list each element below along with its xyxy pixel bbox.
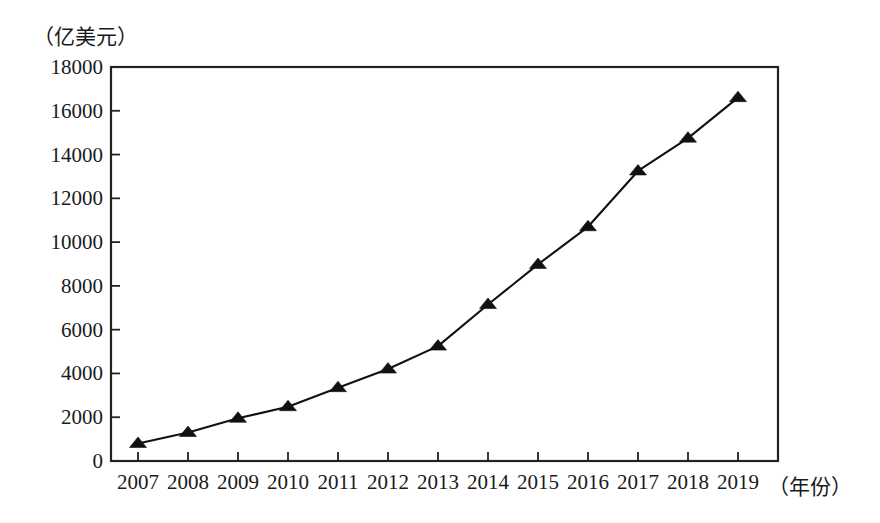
x-tick-label: 2008 [167,470,209,495]
y-tick-label: 16000 [51,98,104,123]
x-axis-title: （年份） [768,470,852,500]
x-tick-label: 2012 [367,470,409,495]
y-tick-label: 10000 [51,230,104,255]
y-tick-label: 0 [93,449,104,474]
x-tick-label: 2009 [217,470,259,495]
y-axis-ticks [111,111,120,417]
y-tick-label: 2000 [61,405,103,430]
x-tick-label: 2007 [117,470,159,495]
x-tick-label: 2019 [717,470,759,495]
y-tick-label: 14000 [51,142,104,167]
x-tick-label: 2018 [667,470,709,495]
x-tick-label: 2014 [467,470,509,495]
data-markers [130,91,747,447]
x-tick-label: 2011 [317,470,358,495]
y-tick-label: 6000 [61,317,103,342]
x-tick-label: 2016 [567,470,609,495]
chart-figure: （亿美元） 0200040006000800010000120001400016… [0,0,880,523]
plot-frame [111,67,778,461]
x-tick-label: 2013 [417,470,459,495]
y-tick-label: 12000 [51,186,104,211]
x-tick-label: 2015 [517,470,559,495]
data-line [138,98,738,444]
y-tick-label: 4000 [61,361,103,386]
line-chart-plot [0,0,880,523]
x-tick-label: 2010 [267,470,309,495]
y-tick-label: 18000 [51,55,104,80]
y-tick-label: 8000 [61,273,103,298]
x-tick-label: 2017 [617,470,659,495]
x-axis-ticks [138,452,738,461]
